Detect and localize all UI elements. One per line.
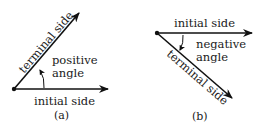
angle-arc-icon-b bbox=[180, 35, 183, 50]
caption-b: (b) bbox=[192, 110, 208, 123]
angle-label-line2-b: angle bbox=[196, 50, 228, 64]
angle-label-line1-b: negative bbox=[196, 37, 246, 51]
initial-side-label-b: initial side bbox=[174, 16, 235, 30]
panel-b: initial side negative angle terminal sid… bbox=[155, 16, 252, 123]
initial-side-label-a: initial side bbox=[34, 94, 95, 108]
caption-a: (a) bbox=[54, 109, 69, 122]
diagram-svg: terminal side positive angle initial sid… bbox=[0, 0, 266, 128]
angle-diagram: terminal side positive angle initial sid… bbox=[0, 0, 266, 128]
angle-arc-icon-a bbox=[40, 70, 44, 88]
angle-label-line2-a: angle bbox=[52, 66, 84, 80]
panel-a: terminal side positive angle initial sid… bbox=[12, 8, 108, 122]
angle-label-line1-a: positive bbox=[52, 53, 98, 67]
